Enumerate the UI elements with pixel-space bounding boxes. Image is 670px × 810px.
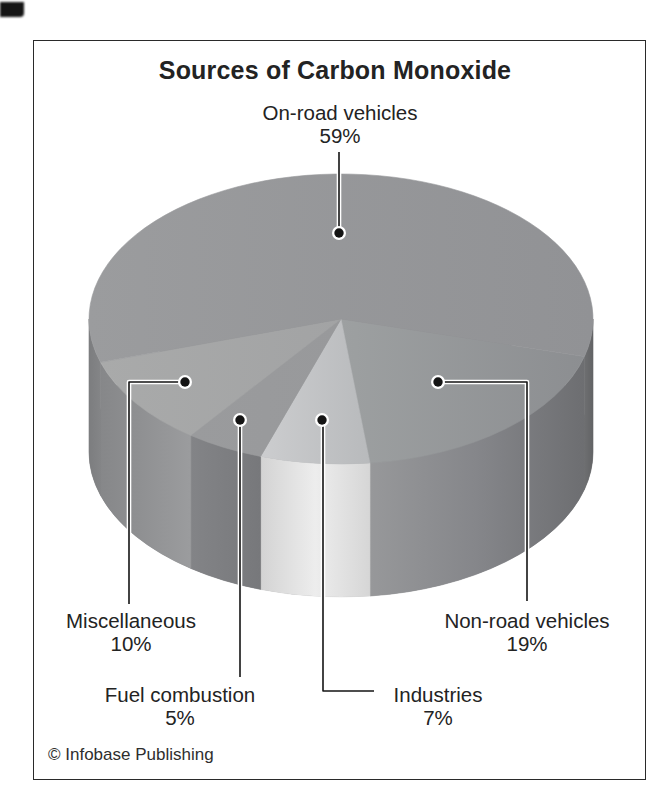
slice-label-pct: 10%: [66, 632, 196, 655]
slice-label-industries: Industries 7%: [394, 683, 483, 729]
slice-label-name: Fuel combustion: [105, 683, 255, 706]
copyright-notice: © Infobase Publishing: [48, 745, 214, 765]
chart-title: Sources of Carbon Monoxide: [0, 56, 670, 85]
slice-label-name: On-road vehicles: [263, 101, 418, 124]
leader-dot-industries: [317, 415, 326, 424]
slice-label-name: Industries: [394, 683, 483, 706]
slice-label-on-road: On-road vehicles 59%: [263, 101, 418, 147]
pie-side-fuel-combustion: [191, 435, 261, 589]
slice-label-pct: 7%: [394, 706, 483, 729]
slice-label-name: Miscellaneous: [66, 609, 196, 632]
leader-dot-non-road: [433, 377, 442, 386]
slice-label-fuel-combustion: Fuel combustion 5%: [105, 683, 255, 729]
slice-label-miscellaneous: Miscellaneous 10%: [66, 609, 196, 655]
slice-label-name: Non-road vehicles: [444, 609, 609, 632]
leader-dot-miscellaneous: [180, 377, 189, 386]
slice-label-non-road: Non-road vehicles 19%: [444, 609, 609, 655]
slice-label-pct: 59%: [263, 124, 418, 147]
leader-dot-on-road: [334, 228, 343, 237]
pie-side-industries: [261, 456, 370, 597]
slice-label-pct: 19%: [444, 632, 609, 655]
leader-dot-fuel-combustion: [235, 415, 244, 424]
slice-label-pct: 5%: [105, 706, 255, 729]
